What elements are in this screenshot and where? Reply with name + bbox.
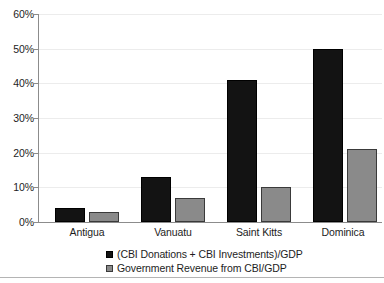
legend-label-series0: (CBI Donations + CBI Investments)/GDP [117, 249, 303, 260]
bar-vanuatu-series0 [141, 177, 171, 222]
legend-item-series1: Government Revenue from CBI/GDP [0, 261, 384, 275]
bar-chart-figure: 60% 50% 40% 30% 20% 10% 0% [0, 0, 384, 283]
bar-dominica-series0 [313, 49, 343, 222]
legend-swatch-icon [106, 265, 113, 272]
bars-layer [0, 0, 384, 244]
bar-vanuatu-series1 [175, 198, 205, 222]
bar-antigua-series0 [55, 208, 85, 222]
bottom-divider [0, 277, 384, 278]
bar-saint-kitts-series1 [261, 187, 291, 222]
legend-swatch-icon [106, 251, 113, 258]
x-category-label-antigua: Antigua [44, 226, 130, 238]
x-category-label-dominica: Dominica [300, 226, 384, 238]
bar-dominica-series1 [347, 149, 377, 222]
legend-item-series0: (CBI Donations + CBI Investments)/GDP [0, 247, 384, 261]
x-category-label-saint-kitts: Saint Kitts [216, 226, 302, 238]
legend-label-series1: Government Revenue from CBI/GDP [117, 263, 287, 274]
chart-legend: (CBI Donations + CBI Investments)/GDP Go… [0, 247, 384, 275]
x-category-label-vanuatu: Vanuatu [130, 226, 216, 238]
bar-saint-kitts-series0 [227, 80, 257, 222]
bar-antigua-series1 [89, 212, 119, 222]
x-axis-line [38, 222, 382, 223]
plot-area: 60% 50% 40% 30% 20% 10% 0% [0, 0, 384, 244]
